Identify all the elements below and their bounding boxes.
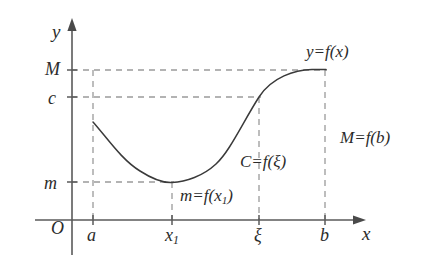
min-value-annotation: m=f(x1) <box>180 187 233 206</box>
y-axis-label: y <box>52 22 60 41</box>
origin-label: O <box>51 219 64 237</box>
y-tick-label-c: c <box>48 89 56 107</box>
x-tick-label-x1: x1 <box>165 226 179 247</box>
math-figure: y x O M c m a x1 ξ b y=f(x) M=f(b) C=f(ξ… <box>0 0 422 274</box>
x-axis-label: x <box>362 224 370 243</box>
x-tick-label-xi: ξ <box>254 226 262 244</box>
min-value-annotation-suffix: ) <box>227 186 233 205</box>
curve-name-annotation: y=f(x) <box>306 43 349 60</box>
x-tick-label-x1-base: x <box>165 225 173 245</box>
x-tick-label-x1-subscript: 1 <box>173 233 179 247</box>
max-value-annotation: M=f(b) <box>340 129 390 146</box>
y-tick-label-m: m <box>44 174 57 192</box>
y-tick-label-M: M <box>45 60 60 78</box>
intermediate-value-annotation: C=f(ξ) <box>240 153 286 170</box>
min-value-annotation-prefix: m=f(x <box>180 186 222 205</box>
function-curve <box>93 70 326 183</box>
x-tick-label-a: a <box>87 226 96 244</box>
y-axis-arrow-icon <box>67 18 76 31</box>
x-tick-label-b: b <box>320 226 329 244</box>
